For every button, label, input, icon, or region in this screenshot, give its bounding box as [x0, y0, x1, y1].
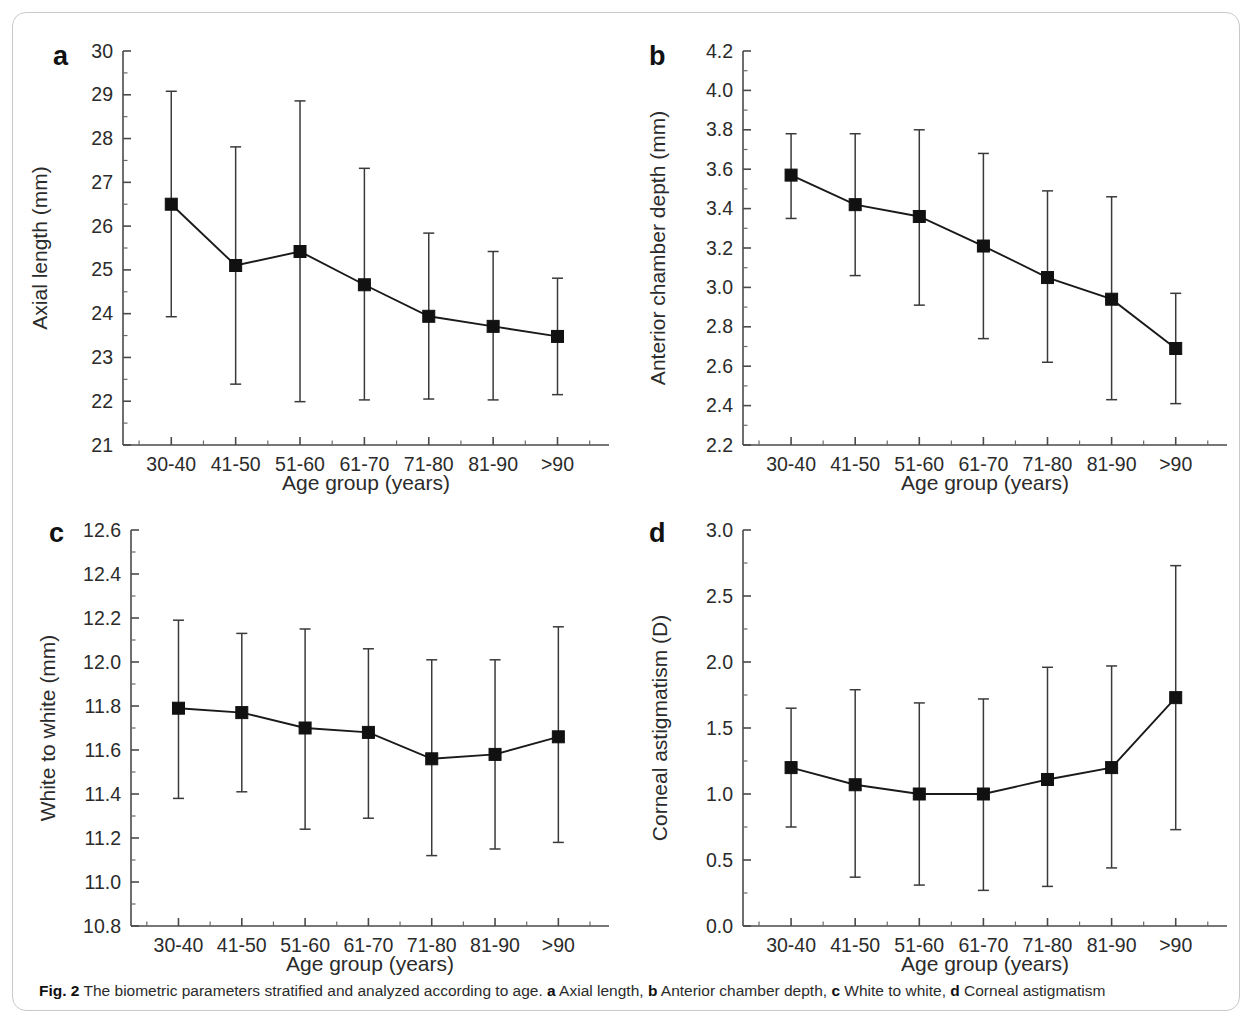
chart-panel-d: d0.00.51.01.52.02.53.030-4041-5051-6061-… — [627, 494, 1241, 975]
figure-panels: a2122232425262728293030-4041-5051-6061-7… — [13, 13, 1241, 975]
y-tick-label-b-3: 2.8 — [706, 315, 733, 337]
x-tick-label-a-6: >90 — [541, 453, 574, 475]
panel-letter-a: a — [53, 41, 69, 71]
y-tick-label-a-1: 22 — [91, 390, 113, 412]
x-tick-label-b-5: 81-90 — [1087, 453, 1137, 475]
data-point-d-1 — [849, 779, 861, 791]
y-tick-label-c-3: 11.4 — [84, 783, 121, 805]
x-tick-label-a-5: 81-90 — [468, 453, 518, 475]
y-tick-label-b-5: 3.2 — [706, 237, 733, 259]
data-point-b-6 — [1170, 342, 1182, 354]
data-point-b-5 — [1106, 293, 1118, 305]
x-tick-label-b-6: >90 — [1159, 453, 1192, 475]
caption-panel-text-a: Axial length, — [556, 982, 648, 999]
y-axis-title-a: Axial length (mm) — [28, 166, 51, 329]
data-point-d-5 — [1106, 762, 1118, 774]
y-tick-label-c-0: 10.8 — [83, 915, 121, 937]
data-point-a-5 — [487, 320, 499, 332]
x-axis-title-a: Age group (years) — [282, 471, 450, 494]
y-tick-label-a-9: 30 — [91, 40, 113, 62]
data-point-b-1 — [849, 199, 861, 211]
data-point-a-3 — [358, 279, 370, 291]
y-tick-label-c-7: 12.2 — [83, 607, 121, 629]
x-tick-label-a-0: 30-40 — [146, 453, 196, 475]
chart-svg-b: b2.22.42.62.83.03.23.43.63.84.04.230-404… — [627, 13, 1241, 494]
x-tick-label-d-6: >90 — [1159, 934, 1192, 956]
caption-panel-text-d: Corneal astigmatism — [960, 982, 1106, 999]
data-point-d-3 — [977, 788, 989, 800]
chart-svg-c: c10.811.011.211.411.611.812.012.212.412.… — [13, 494, 627, 975]
data-point-c-4 — [426, 753, 438, 765]
panel-letter-c: c — [49, 518, 64, 548]
caption-panel-letter-c: c — [831, 982, 840, 999]
y-tick-label-b-6: 3.4 — [706, 197, 733, 219]
data-point-d-4 — [1042, 773, 1054, 785]
data-point-a-4 — [423, 310, 435, 322]
y-tick-label-c-9: 12.6 — [83, 519, 121, 541]
chart-panel-a: a2122232425262728293030-4041-5051-6061-7… — [13, 13, 627, 494]
data-point-a-0 — [165, 198, 177, 210]
x-axis-title-d: Age group (years) — [901, 952, 1069, 975]
y-tick-label-c-8: 12.4 — [83, 563, 121, 585]
data-point-d-2 — [913, 788, 925, 800]
figure-caption: Fig. 2 The biometric parameters stratifi… — [39, 981, 1225, 1002]
caption-panel-text-b: Anterior chamber depth, — [657, 982, 831, 999]
y-axis-title-c: White to white (mm) — [36, 635, 59, 822]
x-axis-title-b: Age group (years) — [901, 471, 1069, 494]
chart-panel-c: c10.811.011.211.411.611.812.012.212.412.… — [13, 494, 627, 975]
data-point-d-6 — [1170, 692, 1182, 704]
y-tick-label-d-2: 1.0 — [706, 783, 733, 805]
data-point-b-4 — [1042, 272, 1054, 284]
y-axis-title-d: Corneal astigmatism (D) — [648, 615, 671, 841]
y-tick-label-b-4: 3.0 — [706, 276, 733, 298]
y-tick-label-b-8: 3.8 — [706, 118, 733, 140]
y-tick-label-a-3: 24 — [91, 302, 113, 324]
x-tick-label-a-1: 41-50 — [211, 453, 261, 475]
y-tick-label-b-9: 4.0 — [706, 79, 733, 101]
y-tick-label-a-7: 28 — [91, 127, 113, 149]
y-tick-label-b-10: 4.2 — [706, 40, 733, 62]
y-tick-label-b-0: 2.2 — [706, 434, 733, 456]
y-axis-title-b: Anterior chamber depth (mm) — [646, 111, 669, 385]
data-point-a-6 — [552, 330, 564, 342]
x-tick-label-d-5: 81-90 — [1087, 934, 1137, 956]
y-tick-label-c-1: 11.0 — [84, 871, 121, 893]
caption-panel-letter-a: a — [547, 982, 556, 999]
y-tick-label-a-0: 21 — [91, 434, 113, 456]
data-point-c-3 — [362, 726, 374, 738]
y-tick-label-d-6: 3.0 — [706, 519, 733, 541]
panel-letter-d: d — [649, 518, 666, 548]
data-point-a-2 — [294, 246, 306, 258]
data-point-d-0 — [785, 762, 797, 774]
chart-svg-a: a2122232425262728293030-4041-5051-6061-7… — [13, 13, 627, 494]
caption-figure-number: Fig. 2 — [39, 982, 79, 999]
figure-frame: a2122232425262728293030-4041-5051-6061-7… — [12, 12, 1240, 1011]
x-tick-label-c-6: >90 — [542, 934, 575, 956]
data-point-b-2 — [913, 210, 925, 222]
y-tick-label-b-7: 3.6 — [706, 158, 733, 180]
y-tick-label-c-6: 12.0 — [83, 651, 121, 673]
data-point-c-5 — [489, 748, 501, 760]
chart-svg-d: d0.00.51.01.52.02.53.030-4041-5051-6061-… — [627, 494, 1241, 975]
data-point-c-0 — [172, 702, 184, 714]
y-tick-label-d-0: 0.0 — [706, 915, 733, 937]
data-point-b-3 — [977, 240, 989, 252]
x-tick-label-d-1: 41-50 — [830, 934, 880, 956]
panel-letter-b: b — [649, 41, 666, 71]
caption-panel-text-c: White to white, — [840, 982, 950, 999]
y-tick-label-a-2: 23 — [91, 346, 113, 368]
y-tick-label-b-1: 2.4 — [706, 394, 733, 416]
y-tick-label-d-1: 0.5 — [706, 849, 733, 871]
x-tick-label-c-1: 41-50 — [217, 934, 267, 956]
y-tick-label-d-5: 2.5 — [706, 585, 733, 607]
y-tick-label-d-3: 1.5 — [706, 717, 733, 739]
data-point-b-0 — [785, 169, 797, 181]
y-tick-label-a-6: 27 — [91, 171, 113, 193]
x-tick-label-c-5: 81-90 — [470, 934, 520, 956]
y-tick-label-c-5: 11.8 — [84, 695, 121, 717]
y-tick-label-b-2: 2.6 — [706, 355, 733, 377]
y-tick-label-a-5: 26 — [91, 215, 113, 237]
y-tick-label-a-4: 25 — [91, 258, 113, 280]
y-tick-label-a-8: 29 — [91, 83, 113, 105]
caption-main-text: The biometric parameters stratified and … — [79, 982, 547, 999]
